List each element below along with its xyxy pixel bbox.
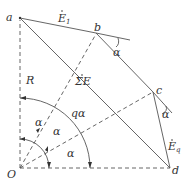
chord-bc xyxy=(96,33,153,92)
label-d: d xyxy=(172,164,179,177)
label-c: c xyxy=(156,84,162,97)
label-E1: E1 xyxy=(57,12,71,26)
label-alpha-3: α xyxy=(67,147,75,160)
arrowhead xyxy=(20,96,26,100)
label-alpha-1: α xyxy=(35,116,43,129)
extension-ab xyxy=(96,33,130,40)
resultant-sumE xyxy=(20,18,170,168)
label-O: O xyxy=(7,168,16,181)
label-alpha-2: α xyxy=(53,125,61,138)
label-q-alpha: qα xyxy=(71,107,86,120)
radius-Ob xyxy=(20,34,96,168)
point-a xyxy=(19,17,21,19)
label-R: R xyxy=(25,74,34,87)
chord-cd xyxy=(153,92,170,168)
phasor-diagram: a b c d O R E1 ΣE Eq α α α α α qα xyxy=(0,0,187,186)
label-sumE: ΣE xyxy=(74,75,91,88)
label-alpha-b: α xyxy=(113,46,121,59)
label-b: b xyxy=(94,21,101,34)
label-Eq: Eq xyxy=(167,140,181,154)
arrowhead xyxy=(20,137,25,141)
arrowhead xyxy=(88,162,92,168)
arrowhead xyxy=(45,146,48,152)
arrowhead xyxy=(47,162,51,168)
radius-Oc xyxy=(20,92,153,168)
label-alpha-c: α xyxy=(162,108,170,121)
label-a: a xyxy=(6,11,13,24)
